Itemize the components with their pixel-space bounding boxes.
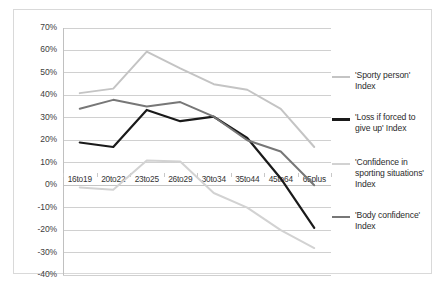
legend-color-swatch — [332, 216, 350, 218]
legend-color-swatch — [332, 118, 350, 121]
series-line — [80, 100, 315, 185]
series-line — [80, 160, 315, 248]
series-lines — [14, 10, 433, 275]
chart-container: 70%60%50%40%30%20%10%0%-10%-20%-30%-40% … — [13, 9, 432, 274]
legend-color-swatch — [332, 163, 350, 165]
legend-color-swatch — [332, 76, 350, 78]
legend-label: 'Sporty person' Index — [355, 70, 433, 92]
legend-label: 'Loss if forced to give up' Index — [355, 112, 433, 134]
series-line — [80, 110, 315, 228]
plot-area: 70%60%50%40%30%20%10%0%-10%-20%-30%-40% … — [14, 10, 433, 275]
legend-label: 'Body confidence' Index — [355, 210, 433, 232]
legend-label: 'Confidence in sporting situations' Inde… — [355, 157, 433, 191]
